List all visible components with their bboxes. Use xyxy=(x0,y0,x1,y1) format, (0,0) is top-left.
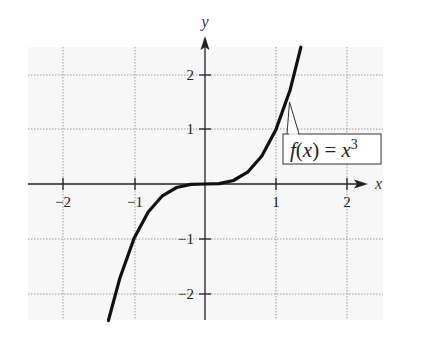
y-tick-label: 1 xyxy=(187,121,195,137)
y-tick-label: −2 xyxy=(178,286,194,302)
x-tick-label: −1 xyxy=(127,194,143,210)
y-tick-label: 2 xyxy=(187,67,195,83)
function-label: f(x) = x3 xyxy=(290,137,358,162)
chart: −2 −1 1 2 x 2 1 −1 −2 y f(x) = x3 xyxy=(0,0,431,337)
x-tick-label: 2 xyxy=(343,194,351,210)
x-tick-label: −2 xyxy=(55,194,71,210)
x-tick-label: 1 xyxy=(272,194,280,210)
y-axis-label: y xyxy=(199,13,209,31)
x-axis-label: x xyxy=(374,175,382,192)
y-tick-label: −1 xyxy=(178,231,194,247)
